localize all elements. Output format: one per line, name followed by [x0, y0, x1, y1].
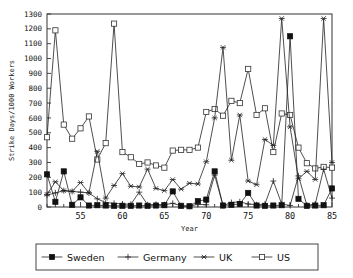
data-point-sweden	[61, 169, 66, 174]
data-point-us	[262, 106, 267, 111]
x-tick-label: 60	[117, 211, 127, 221]
data-point-sweden	[262, 203, 267, 208]
data-point-us	[111, 21, 116, 26]
data-point-us	[220, 113, 225, 118]
legend-label-germany: Germany	[143, 252, 187, 263]
x-tick-label: 75	[243, 211, 253, 221]
data-point-us	[187, 147, 192, 152]
data-point-sweden	[296, 196, 301, 201]
x-tick-label: 65	[159, 211, 169, 221]
strike-days-chart: 0100200300400500600700800900100011001200…	[0, 0, 353, 278]
data-point-sweden	[220, 203, 225, 208]
data-point-us	[53, 28, 58, 33]
data-point-sweden	[321, 203, 326, 208]
data-point-sweden	[279, 203, 284, 208]
legend-label-sweden: Sweden	[67, 252, 105, 263]
data-point-us	[137, 161, 142, 166]
y-tick-label: 1200	[24, 24, 43, 33]
data-point-sweden	[103, 203, 108, 208]
data-point-us	[70, 136, 75, 141]
data-point-us	[287, 112, 292, 117]
data-point-sweden	[153, 203, 158, 208]
data-point-us	[313, 166, 318, 171]
data-point-sweden	[128, 203, 133, 208]
data-point-us	[304, 161, 309, 166]
data-point-us	[120, 149, 125, 154]
data-point-us	[329, 165, 334, 170]
data-point-us	[162, 165, 167, 170]
plot-frame	[47, 14, 332, 207]
y-tick-label: 1000	[24, 54, 43, 63]
data-point-sweden	[70, 202, 75, 207]
data-point-us	[212, 106, 217, 111]
data-point-us	[296, 145, 301, 150]
data-point-us	[229, 98, 234, 103]
data-point-us	[61, 122, 66, 127]
y-tick-label: 200	[28, 173, 42, 182]
legend-marker-sweden	[49, 254, 54, 259]
data-point-us	[179, 147, 184, 152]
y-tick-label: 600	[28, 114, 42, 123]
data-point-sweden	[229, 202, 234, 207]
data-point-sweden	[86, 203, 91, 208]
y-tick-label: 500	[28, 128, 42, 137]
y-tick-label: 100	[28, 188, 42, 197]
y-tick-label: 0	[37, 203, 42, 212]
x-tick-label: 85	[327, 211, 337, 221]
data-point-sweden	[254, 203, 259, 208]
data-point-sweden	[287, 34, 292, 39]
legend-label-us: US	[277, 252, 290, 263]
data-point-us	[271, 149, 276, 154]
legend-label-uk: UK	[219, 252, 233, 263]
data-point-sweden	[204, 197, 209, 202]
data-point-sweden	[179, 203, 184, 208]
data-point-sweden	[53, 199, 58, 204]
data-point-sweden	[120, 203, 125, 208]
data-point-sweden	[304, 203, 309, 208]
y-tick-label: 900	[28, 69, 42, 78]
data-point-sweden	[137, 203, 142, 208]
data-point-sweden	[111, 203, 116, 208]
y-tick-label: 1100	[24, 39, 43, 48]
data-point-us	[145, 160, 150, 165]
y-axis-title: Strike Days/1000 Workers	[8, 60, 16, 161]
chart-svg: 0100200300400500600700800900100011001200…	[0, 0, 353, 278]
data-point-sweden	[212, 169, 217, 174]
legend-marker-us	[259, 254, 264, 259]
x-tick-label: 70	[201, 211, 211, 221]
data-point-sweden	[246, 190, 251, 195]
data-point-sweden	[187, 204, 192, 209]
data-point-sweden	[162, 203, 167, 208]
data-point-sweden	[329, 186, 334, 191]
data-point-sweden	[145, 203, 150, 208]
data-point-us	[128, 155, 133, 160]
data-point-sweden	[170, 189, 175, 194]
data-point-us	[237, 100, 242, 105]
y-tick-label: 400	[28, 143, 42, 152]
data-point-sweden	[237, 201, 242, 206]
data-point-sweden	[271, 203, 276, 208]
data-point-sweden	[95, 203, 100, 208]
x-axis-title: Year	[181, 225, 198, 233]
x-tick-label: 80	[285, 211, 295, 221]
data-point-us	[86, 114, 91, 119]
x-tick-label: 55	[75, 211, 85, 221]
data-point-sweden	[44, 172, 49, 177]
y-tick-label: 700	[28, 99, 42, 108]
data-point-sweden	[195, 198, 200, 203]
data-point-us	[204, 109, 209, 114]
data-point-sweden	[313, 203, 318, 208]
data-point-us	[246, 66, 251, 71]
data-point-us	[195, 145, 200, 150]
y-tick-label: 1300	[24, 10, 43, 19]
data-point-sweden	[78, 195, 83, 200]
data-point-us	[153, 163, 158, 168]
data-point-us	[170, 148, 175, 153]
data-point-us	[44, 135, 49, 140]
y-tick-label: 800	[28, 84, 42, 93]
data-point-us	[78, 126, 83, 131]
y-tick-label: 300	[28, 158, 42, 167]
data-point-us	[254, 112, 259, 117]
data-point-us	[279, 111, 284, 116]
data-point-us	[103, 141, 108, 146]
